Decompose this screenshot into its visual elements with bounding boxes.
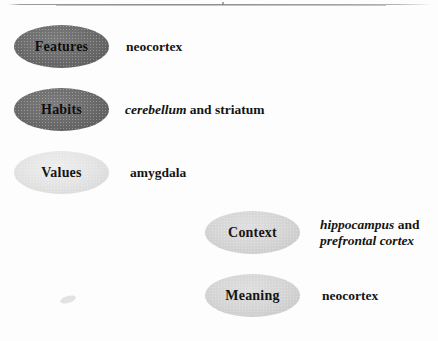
annotation-line: amygdala [130,165,186,180]
ellipse-label-habits: Habits [41,103,82,117]
top-horizontal-rule-secondary [56,5,386,6]
diagram-row-habits: Habits cerebellum and striatum [14,88,265,131]
annotation-line: neocortex [126,39,182,54]
annotation-values: amygdala [130,165,186,180]
annotation-line: cerebellum and striatum [125,102,265,117]
ellipse-label-values: Values [41,166,81,180]
annotation-habits: cerebellum and striatum [125,102,265,117]
annotation-segment: amygdala [130,165,186,180]
figure-canvas: Features neocortex Habits cerebellum and… [0,0,438,341]
annotation-segment: and [394,217,419,232]
annotation-meaning: neocortex [322,288,378,303]
ellipse-habits: Habits [14,88,109,131]
annotation-features: neocortex [126,39,182,54]
ellipse-meaning: Meaning [205,274,300,317]
ellipse-features: Features [14,25,109,68]
diagram-row-features: Features neocortex [14,25,182,68]
diagram-row-meaning: Meaning neocortex [205,274,378,317]
annotation-segment: and striatum [186,102,264,117]
ellipse-values: Values [14,151,109,194]
ellipse-context: Context [205,211,300,254]
ellipse-label-features: Features [35,40,88,54]
ellipse-label-context: Context [228,226,277,240]
annotation-segment-italic: hippocampus [320,217,394,232]
diagram-row-values: Values amygdala [14,151,186,194]
diagram-row-context: Context hippocampus and prefrontal corte… [205,211,419,254]
annotation-line: neocortex [322,288,378,303]
rule-tick-mark [222,2,224,5]
annotation-line: prefrontal cortex [320,233,419,248]
annotation-segment-italic: cerebellum [125,102,186,117]
annotation-segment-italic: prefrontal cortex [320,233,414,248]
annotation-line: hippocampus and [320,217,419,232]
annotation-context: hippocampus and prefrontal cortex [320,217,419,247]
annotation-segment: neocortex [322,288,378,303]
ellipse-label-meaning: Meaning [225,289,279,303]
scan-smudge [59,294,76,305]
annotation-segment: neocortex [126,39,182,54]
